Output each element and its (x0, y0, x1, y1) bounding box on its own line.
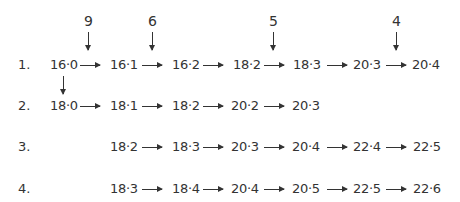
node: 16·0 (50, 58, 78, 72)
right-arrow-icon (327, 189, 347, 190)
down-arrow-icon (396, 32, 397, 50)
down-arrow-icon (152, 32, 153, 50)
node: 20·3 (353, 58, 381, 72)
node: 18·3 (110, 182, 138, 196)
node: 18·3 (293, 58, 321, 72)
annotation-label: 5 (269, 14, 278, 28)
down-arrow-icon (88, 32, 89, 50)
node: 20·2 (231, 99, 259, 113)
right-arrow-icon (264, 65, 284, 66)
node: 20·3 (292, 99, 320, 113)
row-label: 3. (18, 140, 30, 154)
node: 20·5 (292, 182, 320, 196)
right-arrow-icon (264, 106, 284, 107)
right-arrow-icon (264, 147, 284, 148)
right-arrow-icon (264, 189, 284, 190)
right-arrow-icon (203, 189, 223, 190)
node: 18·2 (172, 99, 200, 113)
row-label: 2. (18, 99, 30, 113)
right-arrow-icon (203, 106, 223, 107)
node: 20·3 (231, 140, 259, 154)
node: 20·4 (292, 140, 320, 154)
down-arrow-icon (273, 32, 274, 50)
right-arrow-icon (386, 65, 406, 66)
right-arrow-icon (142, 189, 162, 190)
node: 22·5 (353, 182, 381, 196)
row-label: 4. (18, 182, 30, 196)
down-arrow-icon (63, 76, 64, 94)
right-arrow-icon (386, 147, 406, 148)
right-arrow-icon (80, 106, 100, 107)
right-arrow-icon (142, 147, 162, 148)
row-label: 1. (18, 58, 30, 72)
right-arrow-icon (80, 65, 100, 66)
node: 18·4 (172, 182, 200, 196)
right-arrow-icon (142, 65, 162, 66)
node: 18·1 (110, 99, 138, 113)
right-arrow-icon (203, 65, 223, 66)
node: 18·0 (50, 99, 78, 113)
node: 18·3 (172, 140, 200, 154)
annotation-label: 4 (392, 14, 401, 28)
right-arrow-icon (386, 189, 406, 190)
node: 22·5 (413, 140, 441, 154)
right-arrow-icon (327, 65, 347, 66)
right-arrow-icon (327, 147, 347, 148)
node: 16·1 (110, 58, 138, 72)
node: 22·4 (353, 140, 381, 154)
node: 16·2 (172, 58, 200, 72)
node: 22·6 (413, 182, 441, 196)
right-arrow-icon (203, 147, 223, 148)
annotation-label: 6 (148, 14, 157, 28)
node: 18·2 (233, 58, 261, 72)
node: 20·4 (412, 58, 440, 72)
right-arrow-icon (142, 106, 162, 107)
node: 20·4 (231, 182, 259, 196)
annotation-label: 9 (84, 14, 93, 28)
node: 18·2 (110, 140, 138, 154)
